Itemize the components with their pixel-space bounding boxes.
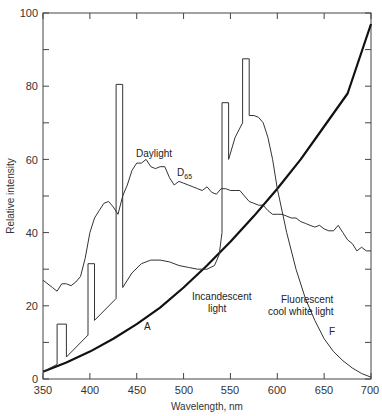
- y-tick-label: 20: [26, 300, 38, 312]
- x-tick-label: 500: [175, 384, 193, 396]
- y-tick-label: 80: [26, 80, 38, 92]
- y-tick-label: 0: [32, 373, 38, 385]
- fluorescent-f-curve: [43, 59, 371, 377]
- x-tick-label: 700: [361, 384, 379, 396]
- spectral-distribution-chart: 350 400 450 500 550 600 650 700 0 20 40 …: [0, 0, 382, 416]
- plot-border: [43, 13, 371, 379]
- y-tick-label: 60: [26, 154, 38, 166]
- x-tick-label: 400: [81, 384, 99, 396]
- x-axis-title: Wavelength, nm: [171, 401, 243, 412]
- daylight-d65-curve: [43, 159, 371, 291]
- x-tick-labels: 350 400 450 500 550 600 650 700: [34, 384, 379, 396]
- axis-ticks: [43, 13, 371, 379]
- incandescent-a-curve: [43, 24, 371, 372]
- x-tick-label: 350: [34, 384, 52, 396]
- x-tick-label: 550: [221, 384, 239, 396]
- d65-main: D: [177, 167, 184, 178]
- incandescent-label-line2: light: [208, 303, 227, 314]
- curve-f-label: F: [329, 326, 335, 337]
- y-tick-labels: 0 20 40 60 80 100: [20, 7, 38, 385]
- x-tick-label: 450: [128, 384, 146, 396]
- plot-frame: [43, 13, 371, 379]
- y-tick-label: 40: [26, 227, 38, 239]
- y-axis-title: Relative intensity: [5, 158, 16, 234]
- curve-a-label: A: [144, 321, 151, 332]
- d65-label: D65: [177, 167, 192, 180]
- d65-subscript: 65: [184, 173, 192, 180]
- daylight-label: Daylight: [136, 148, 172, 159]
- incandescent-label-line1: Incandescent: [192, 291, 252, 302]
- curves: [43, 24, 371, 377]
- x-tick-label: 600: [268, 384, 286, 396]
- fluorescent-label-line1: Fluorescent: [281, 294, 333, 305]
- fluorescent-label-line2: cool white light: [268, 306, 334, 317]
- x-tick-label: 650: [315, 384, 333, 396]
- y-tick-label: 100: [20, 7, 38, 19]
